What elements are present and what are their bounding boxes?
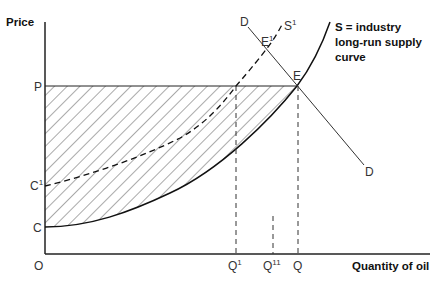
price-c-label: C [33, 221, 42, 235]
demand-label-top: D [240, 15, 249, 29]
shifted-supply-label: S1 [284, 18, 297, 33]
x-axis-label: Quantity of oil [352, 260, 429, 272]
demand-label-bottom: D [365, 165, 374, 179]
price-c1-label: C1 [30, 178, 44, 193]
supply-caption-line-2: long-run supply [335, 36, 422, 48]
y-axis-label: Price [6, 16, 34, 28]
equilibrium-e-label: E [293, 69, 301, 83]
quantity-q11-label: Q11 [263, 258, 281, 273]
equilibrium-e1-label: E1 [261, 34, 274, 49]
quantity-q1-label: Q1 [228, 258, 242, 273]
economic-rent-area [45, 86, 297, 227]
supply-caption-line-3: curve [335, 51, 366, 63]
price-p-label: P [34, 80, 42, 94]
origin-label: O [34, 259, 43, 273]
quantity-q-label: Q [293, 259, 302, 273]
rent-diagram: Price Quantity of oil O P C1 C Q1 Q11 Q … [0, 0, 444, 281]
supply-caption-line-1: S = industry [335, 21, 402, 33]
